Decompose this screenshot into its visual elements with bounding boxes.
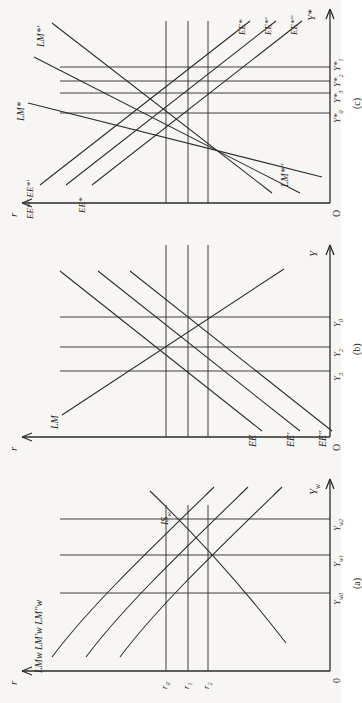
curve-EEstarp	[66, 21, 276, 185]
panel-b-curve-label-EEpp: EE''	[318, 431, 328, 448]
panel-a-xtick-Yw0: Yw0	[333, 593, 344, 605]
panel-c-curve-label-EEstar: EE*	[78, 198, 87, 214]
curve-EEstar	[40, 21, 250, 185]
panel-a-x-axis-label: Yw	[308, 484, 322, 495]
panel-c-xtick-Ystar1: Y*1	[333, 58, 344, 71]
panel-a-xtick-Yw2: Yw2	[333, 519, 344, 531]
panel-a-curve-label-ISw: ISw	[160, 512, 173, 525]
panel-c-x-axis-label: Y*	[306, 9, 317, 21]
panel-a-curve-group-label: LMw LM'w LM''w	[34, 600, 44, 673]
panel-c-curve-group-label-EEstar: EE*'' EE*'	[26, 180, 35, 219]
panel-b-y-axis-label: r	[8, 447, 19, 451]
panel-c-curve-label-EEstarpp-right: EE*''	[290, 16, 299, 35]
panel-a-xtick-Yw1: Yw1	[333, 555, 344, 567]
panel-b-x-axis-label: Y	[308, 251, 319, 257]
panel-c-y-axis-label: r	[8, 213, 19, 217]
curve-LMstar	[28, 103, 322, 177]
panel-a-plot	[0, 469, 341, 701]
panel-c-curve-label-LMstar: LM*	[16, 102, 26, 121]
panel-c-curve-label-EEstarp-right: EE*'	[264, 18, 273, 35]
curve-LM	[62, 269, 284, 415]
panel-a: LMw LM'w LM''w ISw r Yw 0 r0 r1 r2 Yw0 Y…	[0, 469, 341, 701]
panel-c-caption: (c)	[352, 98, 362, 109]
panel-b-xtick-Y3: Y3	[333, 373, 344, 381]
panel-a-caption: (a)	[352, 578, 362, 589]
panel-b-caption: (b)	[352, 343, 362, 355]
panel-c-xtick-Ystar0: Y*0	[333, 110, 344, 123]
curve-LMwpp	[120, 487, 282, 657]
panel-b-curve-label-EE: EE	[248, 435, 258, 447]
panel-c-xtick-Ystar2: Y*2	[333, 74, 344, 87]
panel-b-xtick-Y0: Y0	[333, 319, 344, 327]
panel-a-origin-label: 0	[332, 678, 342, 683]
curve-LMstarpp	[52, 23, 272, 193]
panel-c-curve-label-LMstarpp: LM*''	[280, 164, 290, 187]
panel-b-curve-label-LM: LM	[50, 415, 60, 429]
panel-b-curve-label-EEp: EE'	[286, 433, 296, 447]
panel-c: EE*'' EE*' EE* EE* EE*' EE*'' LM* LM*' L…	[0, 0, 341, 233]
panel-a-y-axis-label: r	[8, 681, 19, 685]
panel-a-ytick-r1: r1	[182, 682, 193, 689]
panel-b: EE EE' EE'' LM r Y O Y3 Y2 Y0 (b)	[0, 235, 341, 467]
panel-b-origin-label: O	[332, 444, 342, 451]
panel-a-ytick-r0: r0	[160, 682, 171, 689]
curve-LMw	[52, 487, 214, 657]
panel-c-curve-label-LMstarp: LM*'	[36, 26, 46, 47]
curve-LMstarp	[34, 57, 300, 193]
panel-c-curve-label-EEstar-right: EE*	[238, 20, 247, 36]
panel-c-xtick-Ystar3: Y*3	[333, 90, 344, 103]
panel-c-origin-label: O	[332, 210, 342, 217]
panel-b-xtick-Y2: Y2	[333, 349, 344, 357]
panel-a-ytick-r2: r2	[202, 682, 213, 689]
curve-EEp	[98, 271, 300, 431]
